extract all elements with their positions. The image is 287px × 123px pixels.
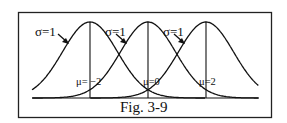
figure-caption: Fig. 3-9 bbox=[120, 99, 168, 116]
sigma-label-1: σ=1 bbox=[35, 24, 56, 40]
sigma-label-3: σ=1 bbox=[163, 24, 184, 40]
mu-label-2: μ=0 bbox=[143, 76, 160, 87]
sigma-label-2: σ=1 bbox=[105, 24, 126, 40]
mu-label-3: μ=2 bbox=[199, 76, 216, 87]
mu-label-1: μ= −2 bbox=[76, 76, 101, 87]
